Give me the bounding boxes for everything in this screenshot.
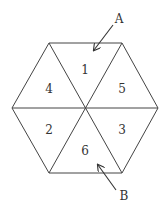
triangle-6-label: 6 — [81, 144, 89, 158]
arrow-b-icon — [98, 165, 116, 190]
arrow-a-label: A — [114, 12, 124, 26]
triangle-3-label: 3 — [118, 123, 126, 137]
hexagon-diagram: 1 4 5 2 3 6 A B — [0, 0, 166, 210]
triangle-5-label: 5 — [118, 82, 126, 96]
triangle-4-label: 4 — [45, 82, 53, 96]
triangle-1-label: 1 — [81, 63, 89, 77]
arrow-b-label: B — [120, 189, 129, 203]
arrow-a-icon — [94, 25, 113, 50]
triangle-2-label: 2 — [45, 123, 53, 137]
